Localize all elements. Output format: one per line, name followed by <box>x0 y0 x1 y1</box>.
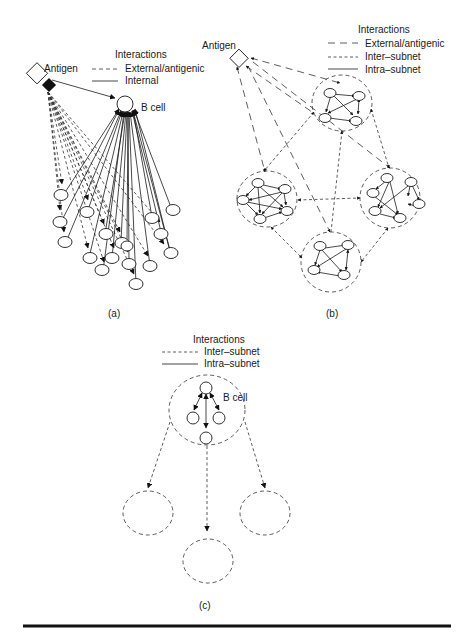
node <box>58 237 72 248</box>
node <box>95 265 109 276</box>
legend-title: Interactions <box>115 49 167 60</box>
bcell-node <box>200 382 212 394</box>
subnet-bottom <box>301 232 361 292</box>
central-network <box>187 382 225 444</box>
legend-label: Inter–subnet <box>204 346 260 357</box>
subnet-right-network <box>367 174 425 223</box>
node <box>143 261 157 272</box>
panel-b: Interactions External/antigenic Inter–su… <box>202 24 445 319</box>
node <box>164 248 178 259</box>
antigen-node <box>230 49 248 67</box>
subnet-empty-right <box>240 491 290 535</box>
node <box>83 253 97 264</box>
panel-b-caption: (b) <box>326 308 338 319</box>
subnet-top-network <box>319 89 365 126</box>
node <box>80 207 94 218</box>
node <box>129 279 143 290</box>
subnet-left-network <box>237 179 293 224</box>
legend-label: Intra–subnet <box>204 358 260 369</box>
legend-title: Interactions <box>358 24 410 35</box>
bcell-label: B cell <box>141 102 165 113</box>
subnet-bottom-network <box>308 241 354 280</box>
subnet-top <box>312 75 372 131</box>
node <box>213 412 225 424</box>
panel-c-legend: Interactions Inter–subnet Intra–subnet <box>162 334 260 369</box>
subnet-empty-left <box>123 491 173 535</box>
node <box>145 213 159 224</box>
target-nodes <box>53 190 180 290</box>
external-edges <box>237 58 390 232</box>
legend-label: External/antigenic <box>365 38 445 49</box>
node <box>105 253 119 264</box>
antigen-label: Antigen <box>202 40 236 51</box>
bcell-node <box>117 96 133 112</box>
node <box>99 229 113 240</box>
bcell-label: B cell <box>223 392 247 403</box>
panel-c-caption: (c) <box>199 600 211 611</box>
figure-immune-network: Interactions External/antigenic Internal <box>0 0 469 638</box>
panel-c: Interactions Inter–subnet Intra–subnet B… <box>123 334 290 611</box>
node <box>53 217 67 228</box>
node <box>54 190 68 201</box>
panel-b-legend: Interactions External/antigenic Inter–su… <box>328 24 445 75</box>
node <box>122 259 136 270</box>
node <box>121 241 133 251</box>
legend-title: Interactions <box>193 334 245 345</box>
legend-label: Internal <box>125 75 158 86</box>
node <box>166 205 180 216</box>
panel-a-legend: Interactions External/antigenic Internal <box>92 49 205 86</box>
legend-label: External/antigenic <box>125 63 205 74</box>
node <box>200 432 212 444</box>
antigen-arrowheads <box>42 78 56 92</box>
node <box>187 412 199 424</box>
legend-label: Intra–subnet <box>365 64 421 75</box>
node <box>154 229 168 240</box>
subnet-empty-bottom <box>183 539 233 583</box>
antigen-label: Antigen <box>44 63 78 74</box>
legend-label: Inter–subnet <box>365 51 421 62</box>
panel-a: Interactions External/antigenic Internal <box>26 49 204 319</box>
panel-a-caption: (a) <box>108 308 120 319</box>
